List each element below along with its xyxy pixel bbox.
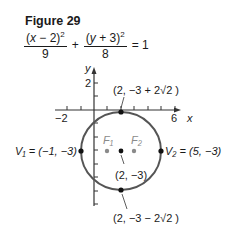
focus-f1-point (105, 149, 109, 153)
x-axis-label: x (186, 112, 193, 124)
x-tick-label-6: 6 (171, 112, 177, 124)
center-leader (121, 155, 124, 164)
bottom-vertex-label: (2, −3 − 2√2 ) (113, 212, 179, 224)
center-point (119, 149, 124, 154)
y-tick-label-2: 2 (85, 77, 91, 89)
top-vertex-leader (121, 97, 124, 108)
x-tick-label-neg2: −2 (55, 112, 68, 124)
focus-f2-label: F₂ (131, 134, 143, 146)
ellipse-graph: y 2 −2 6 x (2, −3 + 2√2 ) (2, −3) (2, −3… (0, 0, 229, 248)
top-vertex-label: (2, −3 + 2√2 ) (113, 84, 179, 96)
focus-f2-point (132, 149, 136, 153)
bottom-vertex-point (118, 187, 123, 192)
v2-point (158, 148, 163, 153)
top-vertex-point (118, 109, 123, 114)
v1-point (78, 148, 83, 153)
bottom-vertex-leader (122, 194, 127, 209)
v1-label: V₁ = (−1, −3) (15, 145, 77, 157)
v2-label: V₂ = (5, −3) (165, 145, 222, 157)
y-axis-label: y (84, 62, 92, 74)
y-axis-arrow-icon (92, 67, 97, 74)
center-label: (2, −3) (115, 169, 147, 181)
focus-f1-label: F₁ (103, 134, 114, 146)
y-axis (92, 67, 99, 206)
